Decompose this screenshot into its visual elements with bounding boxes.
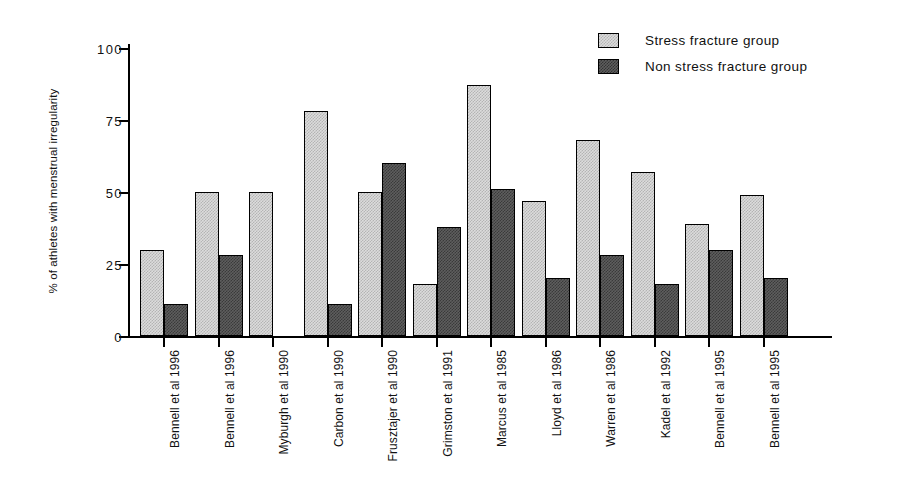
bar — [140, 250, 164, 336]
bar — [328, 304, 352, 336]
bar — [358, 192, 382, 336]
x-tick-mark — [163, 338, 165, 347]
chart-legend: Stress fracture groupNon stress fracture… — [598, 27, 898, 79]
bar — [546, 278, 570, 336]
bar-chart-figure: % of athletes with menstrual irregularit… — [0, 0, 910, 488]
x-axis-label: Bennell et al 1995 — [713, 350, 727, 448]
x-tick-mark — [490, 338, 492, 347]
x-axis-line — [128, 336, 832, 338]
bar — [304, 111, 328, 336]
x-axis-label: Bennell et al 1996 — [168, 350, 182, 448]
bar — [195, 192, 219, 336]
legend-label: Stress fracture group — [645, 33, 779, 48]
bar — [685, 224, 709, 336]
bar — [491, 189, 515, 336]
bar — [437, 227, 461, 336]
x-axis-label: Lloyd et al 1986 — [550, 350, 564, 436]
x-tick-mark — [327, 338, 329, 347]
bar — [709, 250, 733, 336]
bar — [249, 192, 273, 336]
x-tick-mark — [436, 338, 438, 347]
bar — [631, 172, 655, 336]
bar — [413, 284, 437, 336]
x-tick-mark — [218, 338, 220, 347]
legend-item: Stress fracture group — [598, 27, 898, 53]
x-axis-label: Myburgh et al 1990 — [277, 350, 291, 455]
x-axis-label: Grimston et al 1991 — [441, 350, 455, 457]
y-tick-label: 100 — [97, 42, 123, 57]
y-tick-label: 25 — [106, 258, 123, 273]
bar — [764, 278, 788, 336]
bar — [382, 163, 406, 336]
y-tick-label: 50 — [106, 186, 123, 201]
bar — [576, 140, 600, 336]
x-tick-mark — [763, 338, 765, 347]
legend-label: Non stress fracture group — [645, 59, 807, 74]
x-tick-mark — [708, 338, 710, 347]
x-tick-mark — [654, 338, 656, 347]
y-axis-line — [128, 44, 130, 338]
bar — [522, 201, 546, 336]
x-tick-mark — [272, 338, 274, 347]
x-axis-label: Bennell et al 1996 — [223, 350, 237, 448]
y-tick-label: 0 — [114, 330, 123, 345]
bar — [655, 284, 679, 336]
bar — [600, 255, 624, 336]
legend-swatch-dark — [598, 59, 619, 74]
x-tick-mark — [381, 338, 383, 347]
x-axis-label: Warren et al 1986 — [604, 350, 618, 447]
x-axis-label: Bennell et al 1995 — [768, 350, 782, 448]
bar — [219, 255, 243, 336]
bar — [467, 85, 491, 336]
x-tick-mark — [599, 338, 601, 347]
x-axis-label: Marcus et al 1985 — [495, 350, 509, 447]
x-axis-label: Frusztajer et al 1990 — [386, 350, 400, 462]
x-tick-mark — [545, 338, 547, 347]
x-axis-label: Carbon et al 1990 — [332, 350, 346, 447]
y-axis-title: % of athletes with menstrual irregularit… — [47, 56, 59, 326]
y-tick-label: 75 — [106, 114, 123, 129]
plot-area: 0255075100 — [128, 44, 832, 338]
x-axis-label: Kadel et al 1992 — [659, 350, 673, 438]
bar — [164, 304, 188, 336]
bar — [740, 195, 764, 336]
legend-item: Non stress fracture group — [598, 53, 898, 79]
legend-swatch-light — [598, 33, 619, 48]
